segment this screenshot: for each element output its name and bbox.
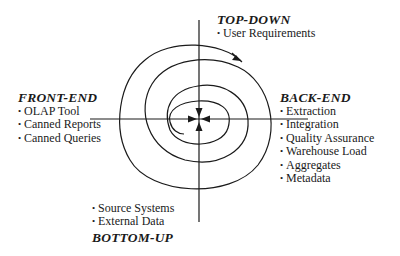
list-item: •External Data	[92, 215, 174, 228]
top-down-heading: TOP-DOWN	[217, 12, 315, 27]
list-item: •Metadata	[280, 172, 374, 185]
list-item: •Aggregates	[280, 159, 374, 172]
front-end-heading: FRONT-END	[18, 90, 101, 105]
list-item: •Canned Reports	[18, 118, 101, 131]
arrow-down-icon	[196, 108, 203, 117]
list-item: •Extraction	[280, 105, 374, 118]
list-item: •OLAP Tool	[18, 105, 101, 118]
bottom-up-block: •Source Systems •External Data BOTTOM-UP	[92, 202, 174, 245]
arrow-right-icon	[188, 116, 197, 123]
item-label: Source Systems	[98, 201, 174, 215]
list-item: •Canned Queries	[18, 132, 101, 145]
item-label: Metadata	[286, 171, 331, 185]
item-label: External Data	[98, 214, 164, 228]
list-item: •User Requirements	[217, 27, 315, 40]
front-end-block: FRONT-END •OLAP Tool •Canned Reports •Ca…	[18, 90, 101, 145]
item-label: Canned Queries	[24, 131, 101, 145]
top-down-block: TOP-DOWN •User Requirements	[217, 12, 315, 40]
item-label: Integration	[286, 117, 339, 131]
back-end-block: BACK-END •Extraction •Integration •Quali…	[280, 90, 374, 185]
list-item: •Warehouse Load	[280, 145, 374, 158]
arrow-left-icon	[201, 116, 210, 123]
item-label: Extraction	[286, 104, 336, 118]
item-label: Warehouse Load	[286, 144, 367, 158]
list-item: •Quality Assurance	[280, 132, 374, 145]
back-end-heading: BACK-END	[280, 90, 374, 105]
item-label: Quality Assurance	[286, 131, 374, 145]
list-item: •Integration	[280, 118, 374, 131]
item-label: Aggregates	[286, 158, 341, 172]
item-label: User Requirements	[223, 26, 315, 40]
list-item: •Source Systems	[92, 202, 174, 215]
arrow-up-icon	[196, 122, 203, 131]
item-label: Canned Reports	[24, 117, 101, 131]
item-label: OLAP Tool	[24, 104, 80, 118]
bottom-up-heading: BOTTOM-UP	[92, 230, 174, 245]
spiral-path	[120, 45, 271, 189]
